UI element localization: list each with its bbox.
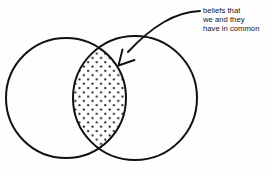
annotation-line-1: beliefs that [203,6,267,15]
annotation-leader-line [128,11,200,52]
annotation-line-3: have in common [203,24,267,33]
venn-diagram-canvas: beliefs that we and they have in common [0,0,267,173]
annotation-label: beliefs that we and they have in common [203,6,267,33]
annotation-arrow-head [119,50,135,66]
annotation-line-2: we and they [203,15,267,24]
